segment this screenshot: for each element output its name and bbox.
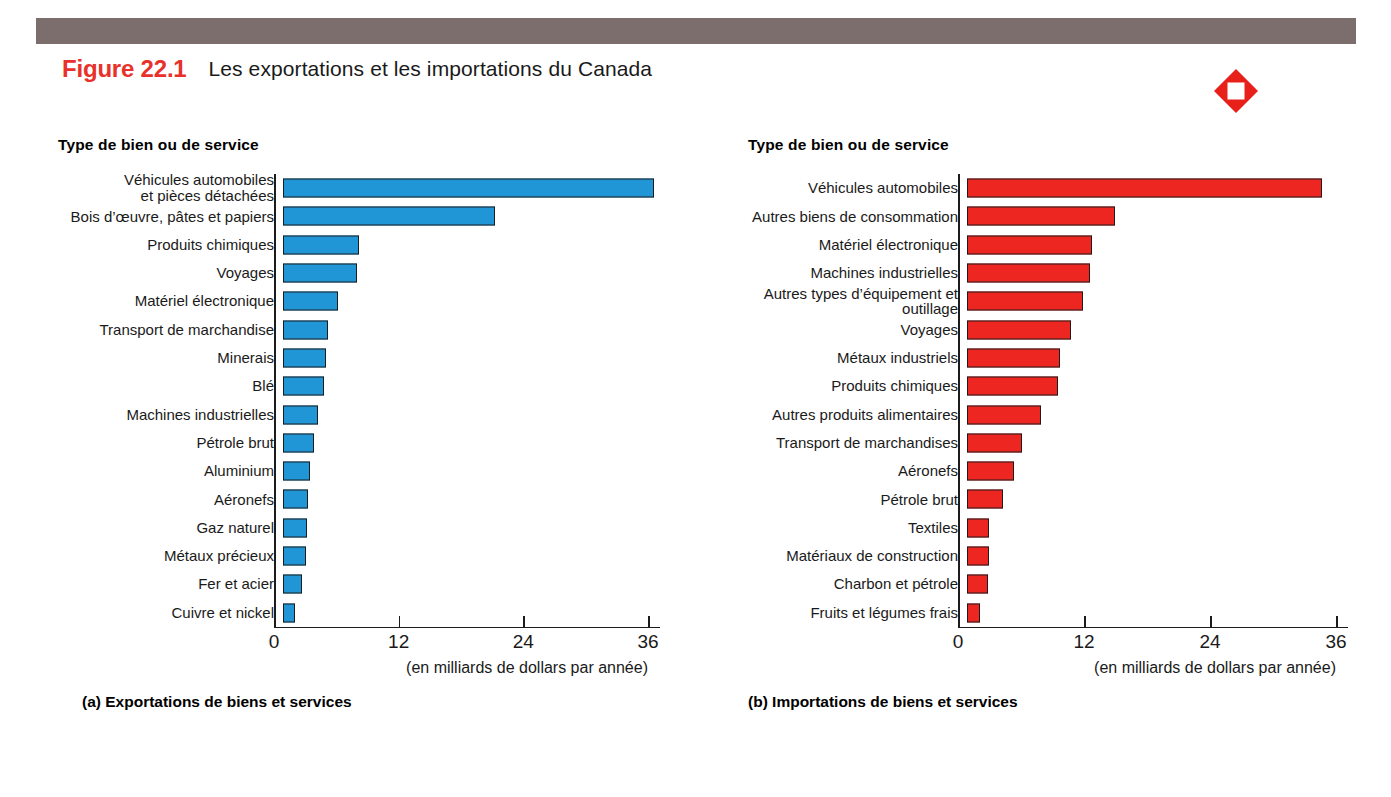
- bar: [967, 179, 1322, 198]
- bar-category-label: Blé: [22, 378, 283, 394]
- figure-title: Les exportations et les importations du …: [209, 57, 653, 81]
- bar-track: [967, 598, 1380, 626]
- bar: [967, 490, 1003, 509]
- bar-category-label: Pétrole brut: [22, 435, 283, 451]
- bar: [283, 235, 359, 254]
- bar-track: [283, 400, 712, 428]
- axis-tick: [1210, 616, 1212, 627]
- bar-track: [967, 202, 1380, 230]
- bar: [283, 207, 495, 226]
- bar: [967, 348, 1060, 367]
- red-diamond-icon: [1213, 68, 1259, 114]
- bar: [967, 433, 1022, 452]
- bar-category-label: Aluminium: [22, 463, 283, 479]
- bar-category-label: Fruits et légumes frais: [700, 605, 967, 621]
- bar: [283, 292, 338, 311]
- bar-track: [967, 542, 1380, 570]
- bar-category-label: Métaux précieux: [22, 548, 283, 564]
- bar: [967, 292, 1083, 311]
- axis-tick-label: 36: [637, 631, 658, 653]
- bar-category-label: Matériel électronique: [22, 293, 283, 309]
- bar-category-label: Charbon et pétrole: [700, 576, 967, 592]
- bar-track: [967, 315, 1380, 343]
- bar-row: Fer et acier: [22, 570, 712, 598]
- bar-row: Pétrole brut: [700, 485, 1380, 513]
- bar-row: Matériel électronique: [700, 231, 1380, 259]
- bar: [967, 603, 980, 622]
- bar-category-label: Machines industrielles: [700, 265, 967, 281]
- bar-row: Voyages: [700, 315, 1380, 343]
- bar-category-label: Cuivre et nickel: [22, 605, 283, 621]
- chart-exportations: Véhicules automobiles et pièces détachée…: [22, 174, 712, 693]
- bar-track: [283, 259, 712, 287]
- chart-b-rows: Véhicules automobilesAutres biens de con…: [700, 174, 1380, 627]
- bar: [283, 433, 314, 452]
- bar-row: Transport de marchandises: [700, 429, 1380, 457]
- bar-row: Matériaux de construction: [700, 542, 1380, 570]
- bar: [283, 377, 324, 396]
- panel-b-axis-header: Type de bien ou de service: [748, 136, 1380, 154]
- axis-tick-label: 12: [1073, 631, 1094, 653]
- bar-track: [283, 287, 712, 315]
- bar-row: Autres types d’équipement et outillage: [700, 287, 1380, 315]
- bar-track: [283, 429, 712, 457]
- bar-category-label: Aéronefs: [700, 463, 967, 479]
- bar-row: Voyages: [22, 259, 712, 287]
- bar-category-label: Matériaux de construction: [700, 548, 967, 564]
- bar-row: Produits chimiques: [700, 372, 1380, 400]
- bar: [283, 462, 310, 481]
- axis-tick-label: 24: [1199, 631, 1220, 653]
- bar-track: [283, 372, 712, 400]
- bar-category-label: Matériel électronique: [700, 237, 967, 253]
- bar: [967, 320, 1071, 339]
- bar-category-label: Bois d’œuvre, pâtes et papiers: [22, 209, 283, 225]
- bar: [967, 575, 988, 594]
- axis-tick-label: 0: [953, 631, 964, 653]
- axis-horizontal-line: [274, 627, 660, 629]
- axis-unit-caption: (en milliards de dollars par année): [1094, 659, 1336, 677]
- axis-unit-caption: (en milliards de dollars par année): [406, 659, 648, 677]
- bar-row: Autres biens de consommation: [700, 202, 1380, 230]
- bar: [283, 405, 318, 424]
- axis-tick: [399, 616, 401, 627]
- bar-row: Véhicules automobiles: [700, 174, 1380, 202]
- bar-track: [283, 202, 712, 230]
- bar-category-label: Gaz naturel: [22, 520, 283, 536]
- axis-tick-label: 24: [513, 631, 534, 653]
- bar-track: [967, 174, 1380, 202]
- bar-category-label: Métaux industriels: [700, 350, 967, 366]
- panel-importations: Type de bien ou de service Véhicules aut…: [700, 136, 1380, 776]
- bar: [967, 377, 1058, 396]
- bar: [967, 518, 989, 537]
- bar-row: Blé: [22, 372, 712, 400]
- axis-vertical-line: [274, 174, 276, 627]
- bar: [967, 405, 1041, 424]
- chart-b-axis: 0122436(en milliards de dollars par anné…: [700, 627, 1380, 693]
- bar-row: Charbon et pétrole: [700, 570, 1380, 598]
- bar-track: [283, 485, 712, 513]
- bar-track: [283, 315, 712, 343]
- panel-caption: (b) Importations de biens et services: [748, 693, 1018, 711]
- bar-row: Textiles: [700, 514, 1380, 542]
- bar-row: Minerais: [22, 344, 712, 372]
- bar-category-label: Autres biens de consommation: [700, 209, 967, 225]
- bar-track: [967, 287, 1380, 315]
- bar-category-label: Machines industrielles: [22, 407, 283, 423]
- bar-row: Aéronefs: [22, 485, 712, 513]
- bar-row: Bois d’œuvre, pâtes et papiers: [22, 202, 712, 230]
- bar-track: [967, 514, 1380, 542]
- bar-category-label: Aéronefs: [22, 492, 283, 508]
- bar-track: [967, 344, 1380, 372]
- bar-category-label: Voyages: [700, 322, 967, 338]
- bar-track: [967, 457, 1380, 485]
- axis-tick: [1336, 616, 1338, 627]
- axis-vertical-line: [958, 174, 960, 627]
- bar-track: [283, 542, 712, 570]
- bar: [283, 603, 295, 622]
- bar-track: [283, 457, 712, 485]
- bar: [283, 179, 654, 198]
- bar-track: [283, 570, 712, 598]
- bar-row: Transport de marchandise: [22, 315, 712, 343]
- bar-category-label: Voyages: [22, 265, 283, 281]
- chart-a-axis: 0122436(en milliards de dollars par anné…: [22, 627, 712, 693]
